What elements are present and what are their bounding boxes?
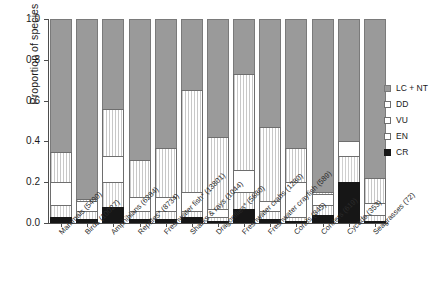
- bar-segment-lcnt: [102, 19, 124, 109]
- bar-segment-lcnt: [233, 19, 255, 74]
- bar[interactable]: [102, 19, 124, 223]
- y-tick-label: 0.6: [6, 95, 40, 106]
- legend-label: DD: [396, 99, 408, 109]
- bar-segment-lcnt: [155, 19, 177, 148]
- bar-segment-vu: [50, 182, 72, 204]
- bar-segment-lcnt: [259, 19, 281, 127]
- bar-segment-lcnt: [76, 19, 98, 199]
- bar-segment-lcnt: [207, 19, 229, 137]
- bar-segment-en: [50, 205, 72, 217]
- bar-segment-lcnt: [312, 19, 334, 192]
- legend-swatch-cr: [384, 149, 391, 156]
- chart-root: Proportion of species 0.00.20.40.60.81.0…: [0, 0, 438, 304]
- y-tick-label: 0.0: [6, 217, 40, 228]
- legend-item[interactable]: CR: [384, 144, 438, 160]
- legend-label: EN: [396, 131, 408, 141]
- y-tick-label: 0.2: [6, 176, 40, 187]
- legend-swatch-en: [384, 133, 391, 140]
- legend-item[interactable]: VU: [384, 112, 438, 128]
- legend-item[interactable]: DD: [384, 96, 438, 112]
- y-tick: [44, 223, 48, 224]
- legend-swatch-dd: [384, 101, 391, 108]
- y-tick-label: 0.8: [6, 54, 40, 65]
- bar-segment-lcnt: [129, 19, 151, 160]
- bar[interactable]: [50, 19, 72, 223]
- bar[interactable]: [338, 19, 360, 223]
- bar-segment-vu: [102, 156, 124, 183]
- bar-segment-lcnt: [50, 19, 72, 152]
- legend-item[interactable]: EN: [384, 128, 438, 144]
- legend-label: CR: [396, 147, 408, 157]
- bar-segment-lcnt: [338, 19, 360, 141]
- legend-label: LC + NT: [396, 83, 428, 93]
- bar-segment-dd: [102, 109, 124, 156]
- legend-label: VU: [396, 115, 408, 125]
- y-tick-label: 1.0: [6, 13, 40, 24]
- legend-swatch-vu: [384, 117, 391, 124]
- y-tick-label: 0.4: [6, 135, 40, 146]
- bar-segment-dd: [50, 152, 72, 183]
- legend-item[interactable]: LC + NT: [384, 80, 438, 96]
- bar[interactable]: [364, 19, 386, 223]
- bar-segment-lcnt: [364, 19, 386, 178]
- legend-swatch-lcnt: [384, 85, 391, 92]
- bar-segment-lcnt: [181, 19, 203, 90]
- bar-segment-vu: [338, 141, 360, 155]
- bar-segment-dd: [181, 90, 203, 192]
- bar-segment-lcnt: [285, 19, 307, 148]
- bar-segment-dd: [233, 74, 255, 170]
- legend: LC + NTDDVUENCR: [384, 80, 438, 160]
- bar-segment-en: [338, 156, 360, 183]
